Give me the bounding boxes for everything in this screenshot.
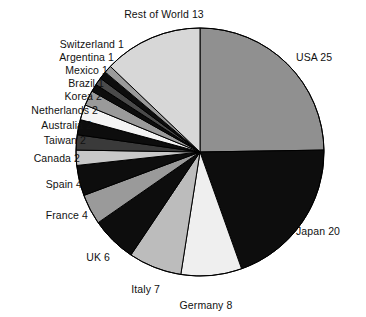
pie-slice-group	[76, 28, 324, 276]
slice-label-uk: UK 6	[0, 251, 110, 263]
slice-label-germany: Germany 8	[152, 299, 260, 311]
pie-slice-usa[interactable]	[200, 28, 324, 152]
slice-label-canada: Canada 2	[0, 152, 80, 164]
slice-label-usa: USA 25	[296, 51, 360, 63]
slice-label-argentina: Argentina 1	[0, 51, 114, 63]
slice-label-australia: Australia 2	[0, 119, 92, 131]
slice-label-italy: Italy 7	[0, 283, 160, 295]
slice-label-japan: Japan 20	[296, 225, 366, 237]
slice-label-netherlands: Netherlands 2	[0, 104, 98, 116]
slice-label-spain: Spain 4	[0, 178, 82, 190]
slice-label-korea: Korea 2	[0, 90, 102, 102]
slice-label-france: France 4	[0, 209, 88, 221]
pie-chart: Rest of World 13 Switzerland 1 Argentina…	[0, 0, 366, 317]
slice-label-rest-of-world: Rest of World 13	[106, 8, 222, 20]
slice-label-brazil: Brazil 1	[0, 77, 104, 89]
slice-label-taiwan: Taiwan 2	[0, 134, 86, 146]
slice-label-switzerland: Switzerland 1	[0, 38, 124, 50]
slice-label-mexico: Mexico 1	[0, 64, 108, 76]
